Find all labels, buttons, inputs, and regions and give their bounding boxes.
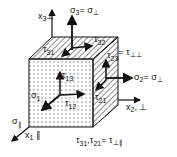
stress-cube-diagram: x3⊥ σ3= σ⊥ τ31 τ32 τ23= τ⊥⊥ σ2= σ⊥ τ21 x… (0, 0, 177, 157)
x2-label: x2, ⊥ (126, 102, 147, 113)
x3-label: x3⊥ (38, 11, 54, 22)
sigma-parallel-label: σ∥ (12, 116, 22, 129)
x1-label: x1 ∥ (25, 130, 41, 141)
tau-relation-label: τ31,τ21= τ⊥∥ (76, 135, 123, 147)
cube-front-face (29, 59, 93, 127)
tau12-arrow (60, 94, 84, 95)
sigma2-label: σ2= σ⊥ (134, 72, 163, 83)
sigma3-label: σ3= σ⊥ (70, 5, 99, 16)
